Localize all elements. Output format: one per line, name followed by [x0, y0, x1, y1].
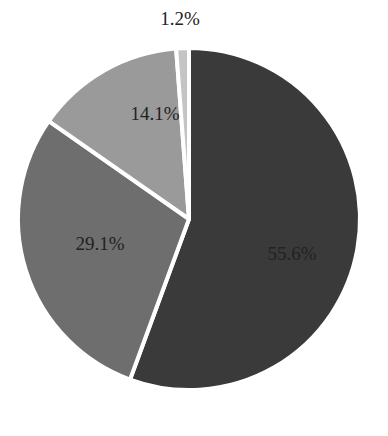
slice-label-2: 14.1% — [130, 103, 179, 124]
pie-chart: 55.6%29.1%14.1%1.2% — [0, 0, 388, 436]
slice-label-0: 55.6% — [267, 243, 316, 264]
slice-label-3: 1.2% — [160, 8, 200, 29]
slice-label-1: 29.1% — [75, 233, 124, 254]
